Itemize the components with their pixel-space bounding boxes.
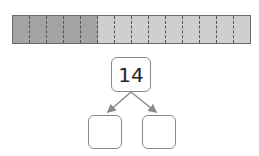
- whole-value: 14: [118, 63, 143, 87]
- part-box-left[interactable]: [88, 115, 122, 149]
- arrow-left-icon: [108, 92, 131, 112]
- part-box-right[interactable]: [142, 115, 176, 149]
- arrow-right-icon: [131, 92, 156, 112]
- whole-box: 14: [111, 57, 151, 92]
